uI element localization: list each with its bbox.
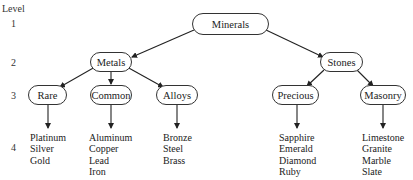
leaf-list-common: Aluminum Copper Lead Iron: [89, 132, 132, 177]
edge-minerals-metals: [132, 30, 194, 57]
node-precious: Precious: [272, 85, 319, 105]
leaf-item: Ruby: [279, 166, 316, 177]
leaf-item: Diamond: [279, 155, 316, 166]
leaf-item: Brass: [163, 155, 192, 166]
node-metals: Metals: [90, 52, 132, 72]
leaf-item: Sapphire: [279, 132, 316, 143]
leaf-item: Lead: [89, 155, 132, 166]
edge-minerals-stones: [266, 30, 323, 57]
leaf-list-precious: Sapphire Emerald Diamond Ruby: [279, 132, 316, 177]
leaf-item: Limestone: [362, 132, 404, 143]
leaf-list-masonry: Limestone Granite Marble Slate: [362, 132, 404, 177]
leaf-item: Marble: [362, 155, 404, 166]
leaf-item: Platinum: [30, 132, 66, 143]
leaf-list-alloys: Bronze Steel Brass: [163, 132, 192, 166]
leaf-item: Copper: [89, 143, 132, 154]
leaf-item: Gold: [30, 155, 66, 166]
edge-metals-rare: [60, 67, 95, 87]
node-common: Common: [90, 85, 132, 105]
leaf-item: Slate: [362, 166, 404, 177]
leaf-item: Silver: [30, 143, 66, 154]
edge-metals-alloys: [127, 67, 163, 87]
edge-stones-precious: [307, 70, 324, 86]
leaf-item: Steel: [163, 143, 192, 154]
leaf-item: Iron: [89, 166, 132, 177]
node-minerals: Minerals: [192, 13, 269, 35]
leaf-item: Granite: [362, 143, 404, 154]
node-rare: Rare: [28, 85, 67, 105]
leaf-item: Bronze: [163, 132, 192, 143]
node-stones: Stones: [320, 52, 363, 72]
leaf-item: Emerald: [279, 143, 316, 154]
edge-stones-masonry: [357, 70, 373, 86]
leaf-list-rare: Platinum Silver Gold: [30, 132, 66, 166]
leaf-item: Aluminum: [89, 132, 132, 143]
node-alloys: Alloys: [156, 85, 198, 105]
node-masonry: Masonry: [360, 85, 406, 105]
